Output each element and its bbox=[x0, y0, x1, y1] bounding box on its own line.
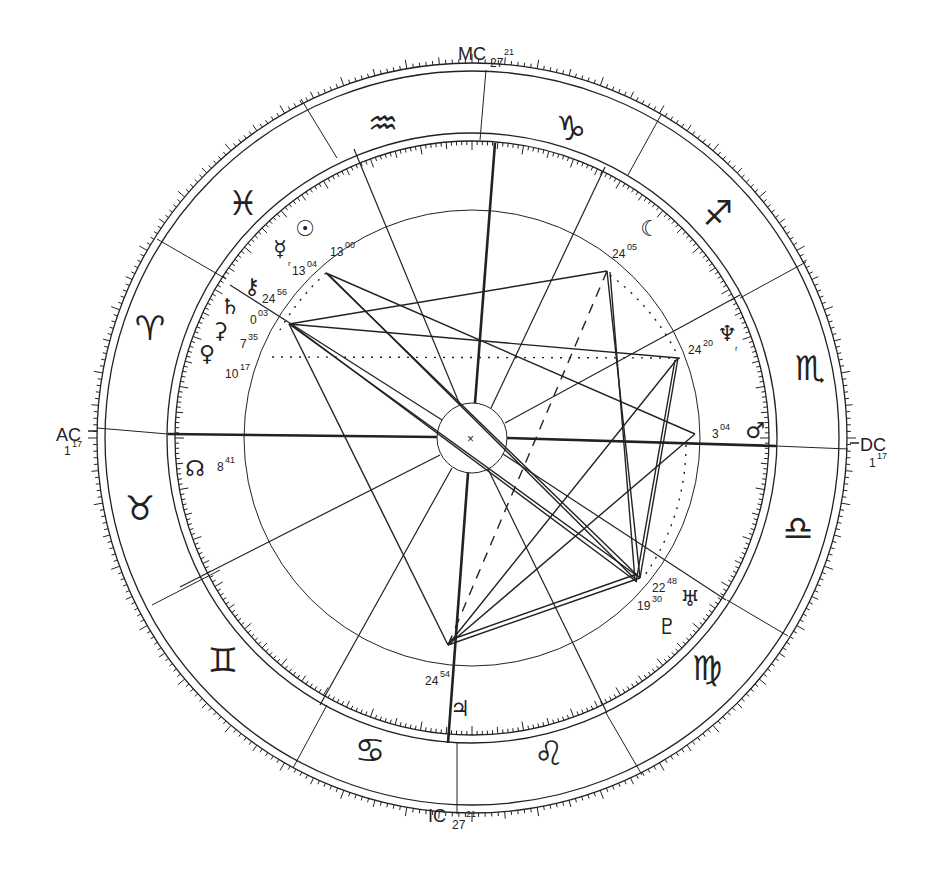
degree-tick bbox=[405, 807, 407, 816]
planet-node: ☊841 bbox=[185, 455, 235, 481]
planet-pluto: ♇1930 bbox=[637, 594, 677, 639]
degree-tick bbox=[178, 191, 185, 197]
degree-tick bbox=[737, 168, 742, 173]
planet-jupiter: ♃2454 bbox=[425, 669, 470, 721]
dc-degree: 1 bbox=[869, 456, 876, 470]
degree-tick bbox=[302, 195, 306, 201]
degree-tick bbox=[225, 144, 231, 151]
degree-tick bbox=[370, 159, 373, 167]
degree-tick bbox=[713, 144, 719, 151]
degree-tick bbox=[193, 537, 201, 540]
planet-degree: 24 bbox=[262, 292, 276, 306]
degree-tick bbox=[262, 643, 267, 648]
degree-tick bbox=[111, 566, 119, 569]
degree-tick bbox=[761, 463, 768, 464]
degree-tick bbox=[439, 57, 440, 64]
planet-degree: 7 bbox=[240, 337, 247, 351]
mercury-icon: ☿ bbox=[273, 236, 287, 261]
ac-degree: 1 bbox=[64, 444, 71, 458]
degree-tick bbox=[571, 709, 574, 717]
center-mark: × bbox=[467, 432, 474, 446]
ic-minutes: 21 bbox=[466, 809, 476, 819]
ac-minutes: 17 bbox=[72, 439, 82, 449]
degree-tick bbox=[178, 679, 185, 685]
degree-tick bbox=[280, 105, 285, 113]
degree-tick bbox=[824, 307, 832, 310]
dc-minutes: 17 bbox=[877, 451, 887, 461]
degree-tick bbox=[395, 151, 397, 158]
planet-sun: ☉1300 bbox=[295, 216, 355, 259]
degree-tick bbox=[677, 643, 682, 648]
degree-tick bbox=[721, 582, 729, 587]
mc-label: MC bbox=[458, 44, 486, 64]
degree-tick bbox=[657, 659, 663, 666]
degree-tick bbox=[324, 181, 329, 189]
pluto-icon: ♇ bbox=[657, 614, 677, 639]
sign-virgo-icon: ♍ bbox=[692, 648, 722, 688]
degree-tick bbox=[420, 146, 422, 155]
degree-tick bbox=[103, 339, 110, 341]
degree-tick bbox=[203, 312, 209, 315]
degree-tick bbox=[638, 195, 642, 201]
planet-degree: 13 bbox=[330, 245, 344, 259]
planet-minutes: 04 bbox=[307, 259, 317, 269]
degree-tick bbox=[253, 745, 257, 751]
degree-tick bbox=[185, 513, 192, 515]
ceres-icon: ⚳ bbox=[212, 318, 228, 343]
degree-tick bbox=[193, 336, 201, 339]
degree-tick bbox=[756, 488, 765, 490]
degree-tick bbox=[405, 60, 407, 69]
zodiac-sign-glyphs: ♒♑♐♏♎♍♌♋♊♉♈♓ bbox=[125, 103, 825, 773]
degree-tick bbox=[202, 703, 207, 708]
retrograde-marker: r bbox=[735, 344, 738, 353]
degree-tick bbox=[569, 800, 571, 807]
degree-tick bbox=[846, 405, 853, 406]
degree-tick bbox=[180, 488, 189, 490]
planet-mercury: ☿r1304 bbox=[273, 236, 317, 278]
degree-tick bbox=[91, 471, 98, 472]
node-icon: ☊ bbox=[185, 456, 205, 481]
degree-tick bbox=[225, 725, 231, 732]
degree-tick bbox=[616, 181, 621, 189]
degree-tick bbox=[841, 371, 850, 373]
uranus-icon: ♅ bbox=[680, 586, 700, 611]
degree-tick bbox=[752, 513, 759, 515]
degree-tick bbox=[846, 471, 853, 472]
degree-tick bbox=[505, 57, 506, 64]
planet-degree: 24 bbox=[425, 674, 439, 688]
degree-tick bbox=[812, 596, 818, 599]
planet-mars: ♂304 bbox=[712, 418, 765, 443]
planet-minutes: 56 bbox=[277, 287, 287, 297]
chiron-icon: ⚷ bbox=[244, 274, 260, 299]
saturn-icon: ♄ bbox=[220, 294, 240, 319]
sun-icon: ☉ bbox=[295, 216, 315, 241]
degree-tick bbox=[253, 125, 257, 131]
planet-degree: 22 bbox=[652, 581, 666, 595]
planet-degree: 8 bbox=[217, 460, 224, 474]
degree-tick bbox=[547, 151, 549, 158]
degree-tick bbox=[311, 92, 314, 98]
degree-tick bbox=[280, 763, 285, 771]
degree-tick bbox=[281, 210, 287, 217]
planet-minutes: 35 bbox=[248, 332, 258, 342]
degree-tick bbox=[824, 566, 832, 569]
degree-tick bbox=[779, 219, 785, 223]
degree-tick bbox=[721, 290, 729, 295]
jupiter-icon: ♃ bbox=[450, 696, 470, 721]
degree-tick bbox=[735, 561, 741, 564]
planet-degree: 10 bbox=[225, 367, 239, 381]
sign-pisces-icon: ♓ bbox=[228, 183, 258, 223]
sign-aries-icon: ♈ bbox=[135, 308, 165, 348]
degree-tick bbox=[94, 503, 103, 505]
degree-tick bbox=[139, 626, 147, 631]
planet-degree: 3 bbox=[712, 427, 719, 441]
degree-tick bbox=[677, 228, 682, 233]
degree-tick bbox=[797, 626, 805, 631]
degree-tick bbox=[737, 703, 742, 708]
sign-scorpio-icon: ♏ bbox=[795, 348, 825, 388]
degree-tick bbox=[244, 247, 251, 253]
sign-sagittarius-icon: ♐ bbox=[703, 193, 733, 233]
planet-minutes: 54 bbox=[440, 669, 450, 679]
degree-tick bbox=[569, 69, 571, 76]
degree-tick bbox=[571, 159, 574, 167]
